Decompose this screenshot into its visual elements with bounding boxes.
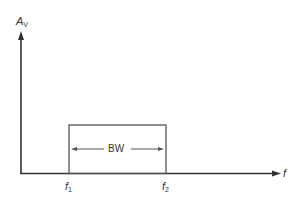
- x-axis-label: f: [283, 168, 286, 179]
- upper-cutoff-label: f2: [162, 181, 169, 193]
- bandwidth-diagram: [0, 0, 295, 203]
- y-axis-label-sub: V: [23, 21, 28, 28]
- y-axis-arrowhead-icon: [18, 31, 24, 40]
- upper-cutoff-sub: 2: [165, 186, 169, 193]
- lower-cutoff-sub: 1: [68, 186, 72, 193]
- x-axis-arrowhead-icon: [272, 171, 281, 177]
- bw-arrowhead-right-icon: [158, 147, 164, 151]
- lower-cutoff-label: f1: [65, 181, 72, 193]
- bw-arrowhead-left-icon: [71, 147, 77, 151]
- bandwidth-label: BW: [105, 144, 127, 154]
- y-axis-label: AV: [16, 16, 28, 28]
